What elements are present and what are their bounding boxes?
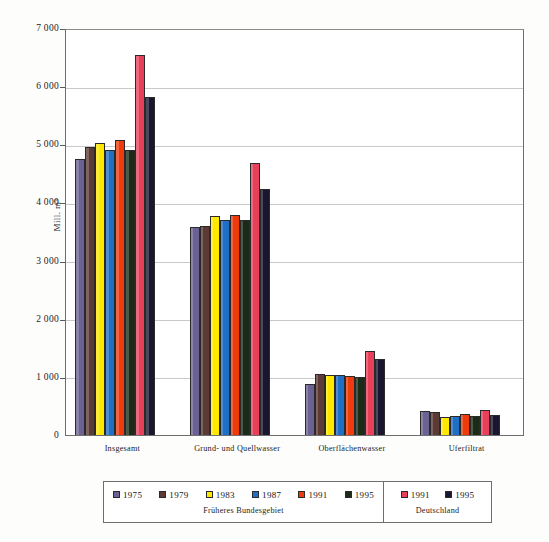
- x-category-label: Oberflächenwasser: [295, 444, 410, 453]
- bar-group: [420, 30, 500, 435]
- bar-group: [75, 30, 155, 435]
- y-tick-label: 3 000: [3, 256, 59, 266]
- legend-label: 1987: [262, 490, 281, 500]
- bar: [230, 215, 240, 435]
- legend-label: 1991: [308, 490, 327, 500]
- bar: [470, 416, 480, 435]
- legend-swatch-icon: [345, 491, 352, 498]
- legend-swatch-icon: [206, 491, 213, 498]
- bar: [220, 220, 230, 435]
- x-category-label: Uferfiltrat: [409, 444, 524, 453]
- y-tick-label: 5 000: [3, 139, 59, 149]
- legend-item-west-1979-1[interactable]: 1979: [159, 490, 188, 500]
- legend-label: 1995: [455, 490, 474, 500]
- legend-item-de-1991-0[interactable]: 1991: [401, 490, 430, 500]
- bar: [325, 375, 335, 435]
- bar: [430, 412, 440, 435]
- bar: [375, 359, 385, 435]
- bar: [200, 226, 210, 435]
- x-category-label: Insgesamt: [65, 444, 180, 453]
- legend-swatch-icon: [159, 491, 166, 498]
- legend-item-west-1983-2[interactable]: 1983: [206, 490, 235, 500]
- legend-swatch-icon: [445, 491, 452, 498]
- bar: [420, 411, 430, 435]
- bar: [145, 97, 155, 435]
- bar: [135, 55, 145, 435]
- x-category-label: Grund- und Quellwasser: [180, 444, 295, 453]
- plot-area: [65, 29, 524, 436]
- y-tick-label: 7 000: [3, 23, 59, 33]
- legend-label: 1979: [169, 490, 188, 500]
- y-tick-label: 4 000: [3, 197, 59, 207]
- bar: [480, 410, 490, 435]
- legend-swatch-icon: [252, 491, 259, 498]
- bar: [460, 414, 470, 435]
- bar: [190, 227, 200, 435]
- bar: [345, 376, 355, 435]
- bar: [365, 351, 375, 435]
- legend-label: 1983: [216, 490, 235, 500]
- legend-entries-west: 197519791983198719911995: [113, 490, 374, 500]
- legend-item-west-1987-3[interactable]: 1987: [252, 490, 281, 500]
- bar: [115, 140, 125, 435]
- legend-caption-west: Früheres Bundesgebiet: [113, 506, 374, 515]
- bar: [250, 163, 260, 435]
- chart-legend: 197519791983198719911995 Früheres Bundes…: [103, 481, 492, 523]
- bar: [440, 417, 450, 435]
- bar: [240, 220, 250, 435]
- legend-swatch-icon: [113, 491, 120, 498]
- bar-group: [305, 30, 385, 435]
- bar: [85, 147, 95, 435]
- bar: [75, 159, 85, 435]
- bar: [95, 143, 105, 435]
- bar: [125, 150, 135, 435]
- legend-caption-germany: Deutschland: [393, 506, 482, 515]
- legend-swatch-icon: [401, 491, 408, 498]
- bar: [355, 377, 365, 435]
- legend-item-de-1995-1[interactable]: 1995: [445, 490, 474, 500]
- bar: [105, 150, 115, 435]
- legend-label: 1995: [355, 490, 374, 500]
- legend-group-germany: 19911995 Deutschland: [384, 481, 492, 523]
- bar: [210, 216, 220, 435]
- legend-item-west-1975-0[interactable]: 1975: [113, 490, 142, 500]
- bar-chart: Mill. m³ 01 0002 0003 0004 0005 0006 000…: [0, 0, 549, 542]
- bar: [315, 374, 325, 435]
- legend-label: 1991: [411, 490, 430, 500]
- legend-label: 1975: [123, 490, 142, 500]
- legend-item-west-1995-5[interactable]: 1995: [345, 490, 374, 500]
- y-tick-label: 2 000: [3, 314, 59, 324]
- bar: [450, 416, 460, 435]
- legend-entries-germany: 19911995: [393, 490, 482, 500]
- legend-swatch-icon: [298, 491, 305, 498]
- bar: [260, 189, 270, 435]
- y-tick-label: 6 000: [3, 81, 59, 91]
- legend-group-west: 197519791983198719911995 Früheres Bundes…: [103, 481, 384, 523]
- bar: [305, 384, 315, 435]
- bar-group: [190, 30, 270, 435]
- y-tick-label: 0: [3, 430, 59, 440]
- y-tick-label: 1 000: [3, 372, 59, 382]
- bar: [490, 415, 500, 435]
- legend-item-west-1991-4[interactable]: 1991: [298, 490, 327, 500]
- bar: [335, 375, 345, 435]
- y-axis-title: Mill. m³: [52, 170, 62, 260]
